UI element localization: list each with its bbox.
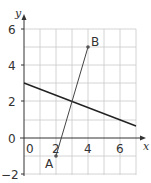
point-b-label: B bbox=[91, 35, 99, 49]
y-tick-4: 4 bbox=[8, 59, 16, 73]
x-tick-6: 6 bbox=[116, 142, 124, 156]
y-tick-neg2: −2 bbox=[1, 168, 19, 182]
y-tick-0: 0 bbox=[8, 132, 16, 146]
y-tick-2: 2 bbox=[8, 95, 16, 109]
y-tick-6: 6 bbox=[8, 23, 16, 37]
y-axis-arrow-icon bbox=[22, 14, 27, 20]
x-tick-0: 0 bbox=[26, 142, 34, 156]
x-tick-4: 4 bbox=[84, 142, 92, 156]
x-axis-label: x bbox=[143, 140, 150, 153]
point-a-label: A bbox=[45, 157, 54, 171]
y-axis-label: y bbox=[14, 7, 22, 20]
line-1 bbox=[24, 83, 136, 126]
coordinate-diagram: y x 6 4 2 0 −2 0 2 4 6 A B bbox=[0, 0, 151, 183]
point-a bbox=[54, 154, 58, 158]
point-b bbox=[86, 45, 90, 49]
